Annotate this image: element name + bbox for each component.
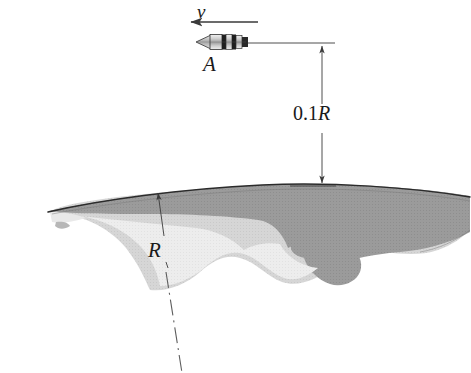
altitude-radius-symbol: R [318, 102, 330, 124]
velocity-label: v [197, 2, 205, 21]
planet-centerline [166, 272, 182, 373]
spacecraft-label: A [203, 54, 216, 75]
physics-figure: v A 0.1R R [0, 0, 471, 373]
planet-left-notch [55, 222, 70, 229]
planet-group [48, 184, 470, 290]
radius-label: R [148, 240, 161, 261]
altitude-number: 0.1 [293, 102, 318, 124]
altitude-label: 0.1R [293, 103, 330, 123]
figure-canvas [0, 0, 471, 373]
spacecraft-group [196, 35, 248, 50]
